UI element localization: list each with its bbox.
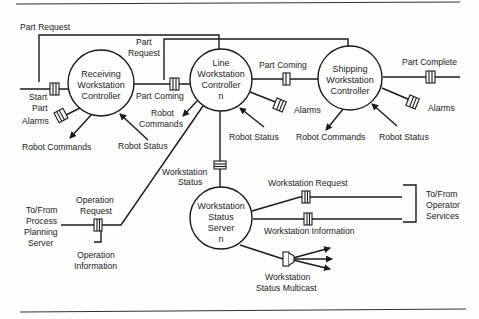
robot-commands-arrow-line: [183, 101, 197, 116]
multicast-label: Workstation: [265, 272, 310, 282]
workstation-request-line: [252, 197, 402, 211]
workstation-information-label: Workstation Information: [264, 226, 355, 236]
part-request-label-line: Part: [136, 37, 152, 47]
operation-information-label: Operation: [77, 250, 115, 260]
part-complete-label: Part Complete: [402, 57, 457, 67]
alarms-label-line: Alarms: [294, 105, 321, 115]
robot-commands-arrow-shipping: [326, 108, 344, 130]
workstation-information-connector-icon: [304, 213, 312, 225]
node-label: Workstation: [77, 80, 124, 90]
workstation-status-server-node: Workstation Status Server n: [190, 187, 252, 249]
robot-status-label-receiving: Robot Status: [118, 141, 168, 151]
part-coming-connector-icon: [170, 78, 179, 90]
robot-status-label-shipping: Robot Status: [379, 132, 429, 142]
robot-commands-label-shipping: Robot Commands: [296, 132, 365, 142]
operation-information-line: [94, 231, 101, 242]
robot-commands-label-line: Commands: [139, 119, 183, 129]
operation-request-label: Request: [80, 206, 113, 216]
part-coming-connector-icon-2: [283, 73, 290, 85]
node-label: Workstation: [326, 75, 373, 85]
part-coming-label-2: Part Coming: [259, 60, 307, 70]
robot-commands-arrow-receiving: [70, 114, 92, 138]
node-label: Server: [208, 223, 235, 233]
top-rule: [16, 2, 460, 4]
alarms-spoke-shipping: [382, 88, 410, 100]
bottom-rule: [20, 309, 466, 312]
alarms-connector-icon-line: [273, 98, 286, 112]
robot-status-arrow-line: [240, 108, 264, 127]
multicast-connector-icon: [283, 252, 294, 266]
node-label: Controller: [330, 86, 369, 96]
to-from-operator-label: Services: [426, 211, 459, 221]
to-from-process-label: Server: [28, 238, 53, 248]
workstation-status-label: Workstation: [162, 167, 207, 177]
robot-status-arrow-shipping: [372, 104, 397, 126]
part-complete-connector-icon: [426, 71, 435, 83]
workstation-architecture-diagram: Receiving Workstation Controller Line Wo…: [0, 0, 479, 319]
node-label: n: [218, 234, 223, 244]
start-part-connector-icon: [50, 83, 59, 95]
line-workstation-controller-node: Line Workstation Controller n: [190, 49, 252, 111]
alarms-connector-icon-shipping: [406, 95, 419, 109]
multicast-arrow-1: [293, 248, 330, 258]
robot-commands-label-line: Robot: [151, 108, 175, 118]
start-part-label: Start: [29, 92, 48, 102]
workstation-request-connector-icon: [302, 191, 310, 203]
to-from-process-label: To/From: [26, 205, 58, 215]
node-label: Status: [208, 212, 234, 222]
alarms-label-receiving: Alarms: [22, 116, 49, 126]
to-from-operator-label: Operator: [426, 200, 460, 210]
node-label: n: [218, 91, 223, 101]
node-label: Workstation: [197, 69, 244, 79]
alarms-connector-icon-receiving: [54, 108, 68, 122]
to-from-operator-label: To/From: [426, 189, 458, 199]
node-label: Workstation: [197, 201, 244, 211]
workstation-status-connector-icon: [214, 161, 226, 169]
operation-request-connector-icon: [94, 219, 102, 231]
node-label: Line: [212, 58, 229, 68]
part-request-label-line: Request: [128, 48, 161, 58]
part-coming-label-1: Part Coming: [136, 91, 184, 101]
robot-commands-label-receiving: Robot Commands: [22, 142, 91, 152]
node-label: Controller: [201, 80, 240, 90]
operation-request-label: Operation: [76, 195, 114, 205]
receiving-workstation-controller-node: Receiving Workstation Controller: [68, 50, 134, 116]
to-from-process-label: Process: [26, 216, 57, 226]
alarms-spoke-line: [250, 92, 278, 103]
operator-services-bracket: [403, 185, 416, 222]
start-part-label: Part: [32, 103, 48, 113]
node-label: Controller: [81, 91, 120, 101]
robot-status-label-line: Robot Status: [229, 132, 279, 142]
diagram-canvas: Receiving Workstation Controller Line Wo…: [0, 0, 479, 319]
workstation-status-label: Status: [178, 177, 202, 187]
shipping-workstation-controller-node: Shipping Workstation Controller: [318, 46, 382, 110]
workstation-request-label: Workstation Request: [268, 178, 348, 188]
multicast-line: [240, 245, 283, 259]
multicast-arrow-3: [293, 260, 330, 269]
to-from-process-label: Planning: [24, 227, 58, 237]
alarms-label-shipping: Alarms: [428, 103, 455, 113]
node-label: Shipping: [332, 64, 367, 74]
multicast-label: Status Multicast: [256, 283, 317, 293]
part-request-label: Part Request: [20, 22, 71, 32]
operation-information-label: Information: [74, 261, 117, 271]
node-label: Receiving: [81, 69, 121, 79]
